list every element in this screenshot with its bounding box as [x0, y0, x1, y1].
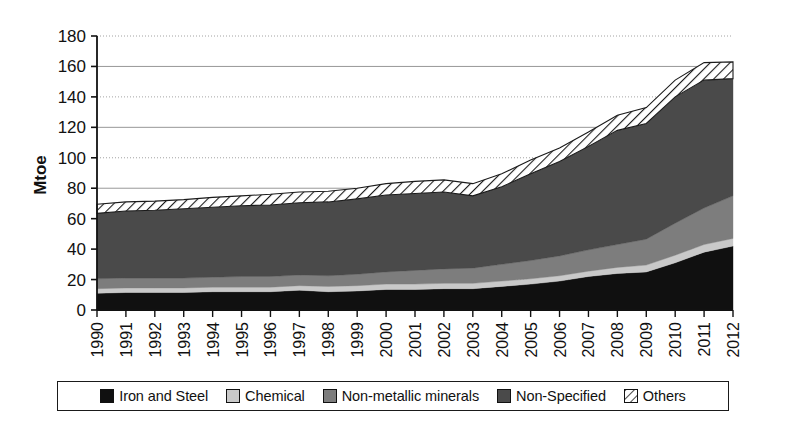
x-axis-tick-label: 1997	[291, 322, 308, 358]
legend-item-label: Non-metallic minerals	[342, 388, 479, 404]
chart-canvas: 180160140120100806040200 199019911992199…	[0, 0, 788, 370]
legend-item-label: Others	[643, 388, 686, 404]
legend-item[interactable]: Others	[624, 388, 686, 404]
legend-item[interactable]: Chemical	[226, 388, 305, 404]
y-axis-tick-labels: 180160140120100806040200	[58, 27, 86, 320]
y-axis-tick-label: 60	[67, 210, 86, 229]
non-metallic-minerals-swatch	[323, 389, 337, 403]
x-axis-tick-label: 2001	[407, 322, 424, 358]
y-axis-tick-label: 0	[77, 301, 86, 320]
chart-page: 180160140120100806040200 199019911992199…	[0, 0, 788, 433]
legend-item[interactable]: Iron and Steel	[100, 388, 208, 404]
x-axis-tick-label: 2008	[609, 322, 626, 358]
non-specified-swatch	[497, 389, 511, 403]
y-axis-tick-label: 100	[58, 149, 86, 168]
x-axis-tick-label: 1991	[118, 322, 135, 358]
y-axis-title: Mtoe	[31, 155, 50, 195]
x-axis-tick-label: 2009	[638, 322, 655, 358]
x-axis-tick-label: 1995	[234, 322, 251, 358]
x-axis-tick-label: 1996	[262, 322, 279, 358]
x-axis-tick-label: 2006	[552, 322, 569, 358]
x-axis-tick-label: 1998	[320, 322, 337, 358]
x-axis-tick-label: 2004	[494, 322, 511, 358]
legend-item[interactable]: Non-metallic minerals	[323, 388, 479, 404]
x-axis-tick-label: 2007	[580, 322, 597, 358]
iron-and-steel-swatch	[100, 389, 114, 403]
y-axis-tick-label: 80	[67, 179, 86, 198]
x-axis-tick-label: 2011	[696, 322, 713, 357]
y-axis-tick-label: 140	[58, 88, 86, 107]
chart-legend: Iron and SteelChemicalNon-metallic miner…	[57, 381, 729, 411]
x-axis-tick-label: 1992	[147, 322, 164, 358]
y-axis-tick-label: 160	[58, 57, 86, 76]
x-axis-tick-label: 2005	[523, 322, 540, 358]
others-swatch	[624, 389, 638, 403]
legend-item-label: Iron and Steel	[119, 388, 208, 404]
x-axis-tick-label: 2002	[436, 322, 453, 358]
legend-item-label: Non-Specified	[516, 388, 606, 404]
y-axis-tick-label: 120	[58, 118, 86, 137]
legend-item[interactable]: Non-Specified	[497, 388, 606, 404]
x-axis-tick-label: 2010	[667, 322, 684, 358]
x-axis-tick-label: 1999	[349, 322, 366, 358]
stacked-area-chart: 180160140120100806040200 199019911992199…	[0, 0, 788, 370]
y-axis-tick-label: 180	[58, 27, 86, 46]
stacked-areas	[97, 62, 733, 310]
y-axis-tick-label: 40	[67, 240, 86, 259]
x-axis-tick-label: 2012	[725, 322, 742, 358]
x-axis-tick-labels: 1990199119921993199419951996199719981999…	[89, 322, 742, 358]
x-axis-tick-label: 1994	[205, 322, 222, 358]
y-axis-tick-label: 20	[67, 271, 86, 290]
x-axis-tick-label: 1990	[89, 322, 106, 358]
x-axis-tick-label: 2000	[378, 322, 395, 358]
x-axis-tick-label: 1993	[176, 322, 193, 358]
legend-item-label: Chemical	[245, 388, 305, 404]
x-axis-tick-label: 2003	[465, 322, 482, 358]
chemical-swatch	[226, 389, 240, 403]
